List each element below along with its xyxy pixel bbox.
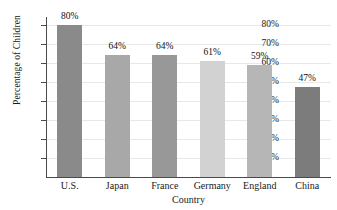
y-axis-tick	[41, 25, 46, 26]
y-axis-tick	[41, 158, 46, 159]
x-axis-tick-label: China	[284, 180, 332, 191]
bar: 59%	[247, 65, 272, 177]
gridline	[47, 101, 331, 102]
x-axis-tick-label: France	[141, 180, 189, 191]
bar: 61%	[200, 61, 225, 177]
x-axis-tick-label: England	[236, 180, 284, 191]
bar: 64%	[152, 55, 177, 177]
y-axis-tick	[41, 63, 46, 64]
bar: 64%	[105, 55, 130, 177]
x-axis-title: Country	[46, 194, 331, 205]
y-axis-tick	[41, 120, 46, 121]
y-axis-title: Percentage of Children	[12, 0, 26, 135]
gridline	[47, 139, 331, 140]
x-axis-line	[46, 177, 331, 178]
gridline	[47, 63, 331, 64]
gridline	[47, 25, 331, 26]
bar-value-label: 64%	[156, 41, 173, 51]
gridline	[47, 158, 331, 159]
x-axis-tick-label: U.S.	[46, 180, 94, 191]
y-axis-tick	[41, 139, 46, 140]
y-axis-tick-label: 80%	[253, 20, 279, 30]
y-axis-tick-label: 70%	[253, 39, 279, 49]
gridline	[47, 120, 331, 121]
bar-chart-figure: Percentage of Children 10%20%30%40%50%60…	[0, 0, 337, 210]
y-axis-tick	[41, 82, 46, 83]
bar: 80%	[57, 25, 82, 177]
y-axis-line	[46, 17, 47, 177]
bar-value-label: 80%	[61, 11, 78, 21]
gridline	[47, 82, 331, 83]
plot-area: 10%20%30%40%50%60%70%80% 80%64%64%61%59%…	[46, 17, 331, 177]
bar-value-label: 47%	[299, 73, 316, 83]
bar: 47%	[295, 87, 320, 177]
bar-value-label: 64%	[109, 41, 126, 51]
x-axis-tick-label: Japan	[94, 180, 142, 191]
gridline	[47, 44, 331, 45]
x-axis-tick-label: Germany	[189, 180, 237, 191]
bar-value-label: 61%	[204, 47, 221, 57]
bar-value-label: 59%	[251, 51, 268, 61]
y-axis-tick	[41, 101, 46, 102]
y-axis-tick	[41, 44, 46, 45]
